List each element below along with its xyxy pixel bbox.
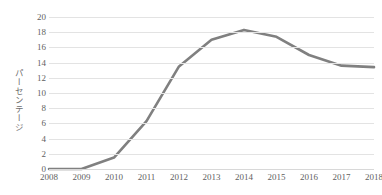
gridline <box>49 47 374 48</box>
plot-area <box>49 17 374 169</box>
x-axis-tick-labels: 2008200920102011201220132014201520162017… <box>49 172 374 190</box>
y-axis-tick: 16 <box>22 42 46 52</box>
y-axis-tick: 4 <box>22 134 46 144</box>
y-axis-tick: 10 <box>22 88 46 98</box>
gridline <box>49 17 374 18</box>
y-axis-tick: 6 <box>22 118 46 128</box>
x-axis-tick: 2010 <box>105 172 123 182</box>
x-axis-tick: 2013 <box>203 172 221 182</box>
x-axis-tick: 2017 <box>333 172 351 182</box>
x-axis-tick: 2015 <box>268 172 286 182</box>
gridline <box>49 154 374 155</box>
gridline <box>49 108 374 109</box>
gridline <box>49 93 374 94</box>
y-axis-tick: 12 <box>22 73 46 83</box>
y-axis-tick: 2 <box>22 149 46 159</box>
x-axis-tick: 2008 <box>40 172 58 182</box>
gridline <box>49 139 374 140</box>
y-axis-tick: 18 <box>22 27 46 37</box>
x-axis-tick: 2009 <box>73 172 91 182</box>
gridline <box>49 32 374 33</box>
x-axis-tick: 2014 <box>235 172 253 182</box>
x-axis-tick: 2011 <box>138 172 156 182</box>
x-axis-tick: 2018 <box>365 172 382 182</box>
y-axis-tick: 14 <box>22 58 46 68</box>
gridline <box>49 78 374 79</box>
y-axis-tick: 20 <box>22 12 46 22</box>
x-axis-tick: 2012 <box>170 172 188 182</box>
y-axis-tick: 8 <box>22 103 46 113</box>
y-axis-title: パーセンテージ <box>6 58 22 142</box>
gridline <box>49 63 374 64</box>
line-chart: パーセンテージ 02468101214161820 20082009201020… <box>0 0 382 195</box>
gridline <box>49 123 374 124</box>
x-axis-tick: 2016 <box>300 172 318 182</box>
gridline <box>49 169 374 170</box>
y-axis-tick-labels: 02468101214161820 <box>22 0 46 195</box>
